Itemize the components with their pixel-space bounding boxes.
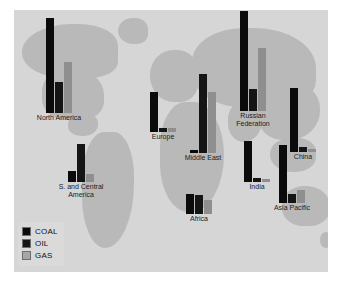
bar-group-south-central-america: S. and Central America [68,143,94,182]
bar-china-coal [290,88,298,152]
bar-asia-pacific-coal [279,145,287,203]
legend-label-coal: COAL [35,227,58,236]
bar-group-label-africa: Africa [190,215,208,223]
bar-europe-coal [150,92,158,132]
bar-group-africa: Africa [186,194,212,214]
bar-india-oil [253,178,261,182]
bar-group-china: China [290,88,316,152]
chart-legend: COAL OIL GAS [18,222,64,266]
bar-group-label-russian-federation: Russian Federation [223,112,283,128]
bar-group-label-middle-east: Middle East [185,154,222,162]
bar-north-america-oil [55,82,63,113]
chart-figure: North America S. and Central America Eur… [0,0,339,283]
bar-russian-federation-gas [258,48,266,111]
bar-group-india: India [244,141,270,182]
legend-swatch-oil [22,239,31,248]
bar-group-label-north-america: North America [37,114,81,122]
legend-item-gas: GAS [22,250,58,261]
bar-europe-gas [168,128,176,132]
bar-group-middle-east: Middle East [190,74,216,153]
bar-china-gas [308,149,316,152]
legend-swatch-gas [22,251,31,260]
bar-south-central-america-gas [86,174,94,182]
bar-group-europe: Europe [150,92,176,132]
bar-group-label-europe: Europe [152,133,175,141]
bar-group-north-america: North America [46,10,72,113]
bar-north-america-gas [64,62,72,113]
bar-europe-oil [159,128,167,132]
legend-label-oil: OIL [35,239,49,248]
legend-item-coal: COAL [22,226,58,237]
world-map-panel: North America S. and Central America Eur… [14,10,328,272]
bar-india-coal [244,141,252,182]
bar-group-asia-pacific: Asia Pacific [279,145,305,203]
landmass-new-zealand [320,232,328,248]
bar-russian-federation-oil [249,89,257,111]
bar-south-central-america-coal [68,171,76,182]
bar-middle-east-coal [190,150,198,153]
bar-north-america-coal [46,18,54,113]
bar-middle-east-oil [199,74,207,153]
bar-africa-gas [204,200,212,214]
bar-group-label-india: India [249,183,264,191]
bar-africa-coal [186,194,194,214]
legend-label-gas: GAS [35,251,53,260]
bar-group-russian-federation: Russian Federation [240,11,266,111]
landmass-greenland [118,18,148,44]
legend-item-oil: OIL [22,238,58,249]
bar-group-label-south-central-america: S. and Central America [51,183,111,199]
bar-asia-pacific-oil [288,194,296,203]
legend-swatch-coal [22,227,31,236]
bar-india-gas [262,179,270,182]
bar-russian-federation-coal [240,11,248,111]
bar-asia-pacific-gas [297,190,305,203]
bar-middle-east-gas [208,92,216,153]
bar-group-label-asia-pacific: Asia Pacific [274,204,310,212]
bar-africa-oil [195,195,203,214]
bar-south-central-america-oil [77,144,85,182]
